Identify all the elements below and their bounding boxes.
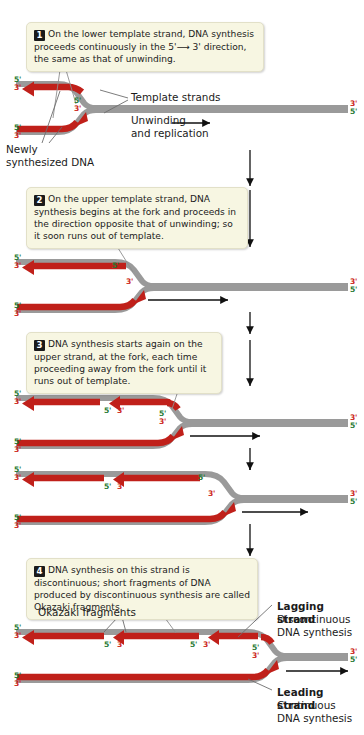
callout-step-1: 1On the lower template strand, DNA synth… <box>26 22 264 72</box>
label-template-strands: Template strands <box>131 91 220 104</box>
panel-3-tick-fork-3: 3' <box>159 418 166 426</box>
label-lagging-sub2: DNA synthesis <box>277 626 352 639</box>
callout-step-3: 3DNA synthesis starts again on the upper… <box>26 332 222 394</box>
label-leading-sub1: Continuous <box>277 699 336 712</box>
step-text-1: On the lower template strand, DNA synthe… <box>34 29 254 64</box>
step-text-2: On the upper template strand, DNA synthe… <box>34 194 236 241</box>
panel-4-tick-right-5: 5' <box>350 498 357 506</box>
step-text-4: DNA synthesis on this strand is disconti… <box>34 565 250 612</box>
label-newly-line1: Newly <box>6 143 38 156</box>
step-number-2: 2 <box>34 195 45 206</box>
step-number-3: 3 <box>34 340 45 351</box>
panel-2-tick-left-bot-3: 3' <box>14 310 21 318</box>
panel-5-tick-left-bot-3: 3' <box>14 680 21 688</box>
panel-4-tick-frag2-3: 3' <box>117 483 124 491</box>
panel-4-tick-left-top-3: 3' <box>14 474 21 482</box>
panel-5-tick-fork-3: 3' <box>252 652 259 660</box>
panel-4-tick-frag2-5: 5' <box>198 474 205 482</box>
panel-4-tick-frag1-5: 5' <box>104 483 111 491</box>
panel-1-tick-right-5: 5' <box>350 108 357 116</box>
label-unwinding: Unwinding <box>131 114 186 127</box>
panel-2-tick-left-top-3: 3' <box>14 262 21 270</box>
step-number-4: 4 <box>34 566 45 577</box>
label-okazaki-fragments: Okazaki fragments <box>38 606 136 619</box>
step-number-1: 1 <box>34 30 45 41</box>
panel-2-tick-fork-3: 3' <box>126 278 133 286</box>
panel-1-tick-fork-3: 3' <box>74 105 81 113</box>
panel-3-tick-frag1-5: 5' <box>104 407 111 415</box>
dna-replication-figure: 1On the lower template strand, DNA synth… <box>0 0 364 735</box>
panel-2-tick-right-5: 5' <box>350 286 357 294</box>
panel-4-tick-left-bot-3: 3' <box>14 522 21 530</box>
label-and-replication: and replication <box>131 127 209 140</box>
panel-5-tick-frag2-3: 3' <box>117 641 124 649</box>
panel-5-tick-left-top-3: 3' <box>14 632 21 640</box>
label-lagging-sub1: Discontinuous <box>277 613 350 626</box>
panel-5-tick-frag2-5: 5' <box>190 641 197 649</box>
step-text-3: DNA synthesis starts again on the upper … <box>34 339 206 386</box>
panel-4-graphics <box>16 468 348 556</box>
panel-1-tick-left-top-3: 3' <box>14 84 21 92</box>
panel-3-tick-right-5: 5' <box>350 422 357 430</box>
callout-step-2: 2On the upper template strand, DNA synth… <box>26 187 248 249</box>
panel-2-tick-frag-5: 5' <box>112 262 119 270</box>
panel-5-tick-frag3-3: 3' <box>203 641 210 649</box>
label-leading-sub2: DNA synthesis <box>277 712 352 725</box>
panel-5-tick-right-5: 5' <box>350 656 357 664</box>
panel-3-tick-left-top-3: 3' <box>14 398 21 406</box>
panel-3-tick-frag2-3: 3' <box>117 407 124 415</box>
panel-3-tick-left-bot-3: 3' <box>14 446 21 454</box>
label-newly-line2: synthesized DNA <box>6 156 94 169</box>
panel-4-tick-fork-3: 3' <box>208 490 215 498</box>
panel-1-tick-left-bot-3: 3' <box>14 132 21 140</box>
panel-5-tick-frag1-5: 5' <box>104 641 111 649</box>
